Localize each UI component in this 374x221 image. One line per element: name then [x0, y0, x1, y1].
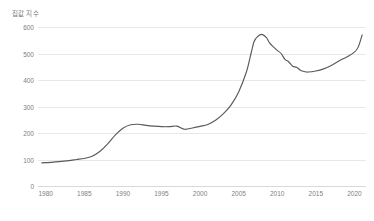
y-tick-label-0: 0 — [2, 183, 34, 190]
y-tick-label-600: 600 — [2, 24, 34, 31]
x-tick-label-2000: 2000 — [193, 190, 207, 197]
y-tick-label-100: 100 — [2, 156, 34, 163]
y-tick-label-300: 300 — [2, 103, 34, 110]
chart-container: 집값 지수 0100200300400500600 19801985199019… — [0, 0, 374, 221]
chart-title: 집값 지수 — [12, 8, 39, 18]
y-axis: 0100200300400500600 — [0, 27, 34, 186]
x-tick-label-2020: 2020 — [347, 190, 361, 197]
x-tick-label-1980: 1980 — [38, 190, 52, 197]
series-path-housing-index — [42, 34, 362, 163]
x-tick-label-1995: 1995 — [154, 190, 168, 197]
y-tick-label-500: 500 — [2, 50, 34, 57]
x-tick-label-2015: 2015 — [309, 190, 323, 197]
plot-area — [38, 27, 366, 186]
x-tick-label-2005: 2005 — [231, 190, 245, 197]
y-tick-label-200: 200 — [2, 130, 34, 137]
x-tick-label-1990: 1990 — [116, 190, 130, 197]
x-axis: 198019851990199520002005201020152020 — [38, 190, 366, 204]
x-tick-label-2010: 2010 — [270, 190, 284, 197]
series-line-chart — [38, 27, 366, 186]
y-tick-label-400: 400 — [2, 77, 34, 84]
x-tick-label-1985: 1985 — [77, 190, 91, 197]
gridline-0 — [38, 186, 366, 187]
